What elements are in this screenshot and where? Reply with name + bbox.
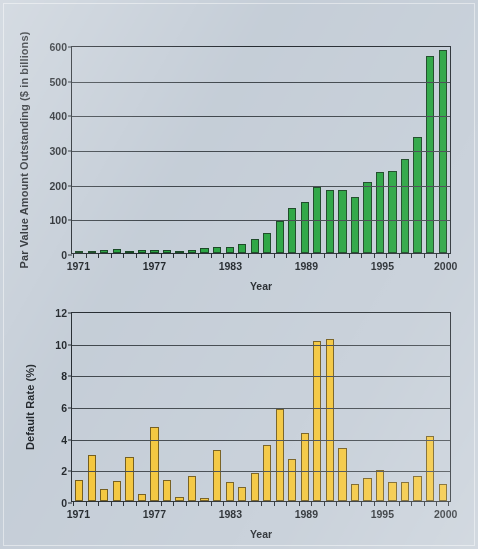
bar [163,480,171,501]
y-tick-label: 8 [61,370,67,382]
bar-slot [311,47,324,253]
bar-slot [349,313,362,501]
x-tick-mark [411,253,424,258]
x-tick-mark [399,501,412,506]
x-tick-mark [436,501,449,506]
gridline [72,408,450,409]
y-tick-label: 200 [49,180,67,192]
bar [351,197,359,254]
bar-slot [324,313,337,501]
bar-slot [349,47,362,253]
bar [75,480,83,501]
bar-slot [274,47,287,253]
x-tick-mark [98,501,111,506]
y-tick-mark [68,47,72,48]
bar-slot [73,313,86,501]
bar [263,445,271,501]
bar-slot [111,313,124,501]
x-tick-mark [73,253,86,258]
gridline [72,440,450,441]
x-tick-mark [386,501,399,506]
gridline [72,471,450,472]
bar [363,478,371,501]
y-tick-label: 100 [49,214,67,226]
bar-slot [98,47,111,253]
bar [413,137,421,253]
bar [150,427,158,501]
bar-slot [223,47,236,253]
y-tick-mark [68,81,72,82]
bar [213,450,221,501]
y-tick-mark [68,408,72,409]
x-tick-mark [274,501,287,506]
x-tick-mark [86,253,99,258]
bar [238,244,246,253]
x-tick-mark [161,501,174,506]
gridline [72,116,450,117]
bar [288,459,296,501]
bar [251,473,259,501]
x-axis-title-bottom: Year [71,528,451,540]
bar-slot [374,313,387,501]
bar [301,202,309,253]
gridline [72,151,450,152]
x-tick-mark [123,501,136,506]
bar-slot [123,313,136,501]
x-tick-mark [286,253,299,258]
bar [413,476,421,501]
x-tick-mark [324,253,337,258]
bar-slot [411,47,424,253]
x-tick-mark [399,253,412,258]
x-tick-mark [436,253,449,258]
bar-slot [161,313,174,501]
gridline [72,82,450,83]
bar-slot [223,313,236,501]
gridline [72,345,450,346]
y-tick-label: 2 [61,465,67,477]
x-tick-label: 2000 [434,508,457,520]
x-tick-mark [261,253,274,258]
bar-slot [173,47,186,253]
x-axis-bottom: 197119771983198919952000 [72,501,450,527]
bar [313,341,321,501]
bar [125,457,133,501]
bar [388,171,396,253]
bar-slot [286,47,299,253]
chart-panel-default-rate: Default Rate (%) 19711977198319891995200… [0,288,478,549]
x-tick-label: 1971 [67,508,90,520]
bar-slot [198,47,211,253]
bar-slot [148,313,161,501]
y-tick-mark [68,313,72,314]
bar [276,409,284,501]
y-tick-label: 600 [49,41,67,53]
bar [388,482,396,501]
bar-slot [411,313,424,501]
x-tick-mark [336,253,349,258]
bar [88,455,96,501]
bar-slot [299,313,312,501]
bar-slot [86,313,99,501]
bar-slot [399,313,412,501]
bar-slot [336,313,349,501]
bar-slot [361,47,374,253]
y-tick-mark [68,220,72,221]
x-tick-mark [223,501,236,506]
bar [351,484,359,501]
gridline [72,186,450,187]
gridline [72,376,450,377]
bar [301,433,309,501]
x-tick-mark [374,253,387,258]
x-tick-mark [411,501,424,506]
bar-series-par-value [72,47,450,253]
bar-slot [98,313,111,501]
bar-slot [148,47,161,253]
bar [263,233,271,253]
x-tick-label: 1971 [67,260,90,272]
x-tick-mark [349,501,362,506]
bar-slot [248,313,261,501]
bar [251,239,259,253]
bar [276,221,284,253]
bar [426,436,434,501]
x-tick-mark [211,501,224,506]
bar-slot [336,47,349,253]
